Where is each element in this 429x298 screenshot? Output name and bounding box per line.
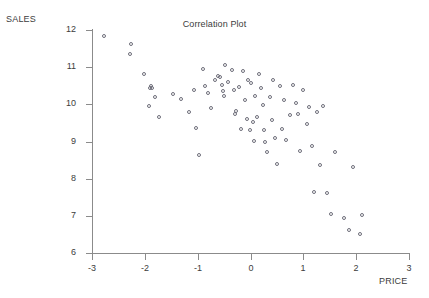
scatter-point xyxy=(213,78,217,82)
scatter-point xyxy=(171,92,175,96)
scatter-point xyxy=(153,95,157,99)
x-tick-label: 1 xyxy=(291,263,315,273)
y-tick-mark xyxy=(86,67,92,68)
scatter-point xyxy=(325,191,329,195)
scatter-point xyxy=(192,88,196,92)
scatter-point xyxy=(142,72,146,76)
scatter-point xyxy=(253,94,257,98)
scatter-point xyxy=(222,94,226,98)
scatter-point xyxy=(296,112,300,116)
scatter-point xyxy=(150,86,154,90)
x-tick-mark xyxy=(303,254,304,260)
scatter-point xyxy=(310,144,314,148)
y-tick-mark xyxy=(86,30,92,31)
scatter-point xyxy=(209,106,213,110)
x-tick-mark xyxy=(198,254,199,260)
scatter-point xyxy=(271,78,275,82)
scatter-point xyxy=(307,105,311,109)
scatter-point xyxy=(358,232,362,236)
scatter-point xyxy=(206,91,210,95)
y-tick-mark xyxy=(86,104,92,105)
y-tick-label: 10 xyxy=(52,98,76,108)
scatter-point xyxy=(223,63,227,67)
scatter-point xyxy=(288,113,292,117)
y-tick-label: 7 xyxy=(52,210,76,220)
y-tick-label: 8 xyxy=(52,173,76,183)
scatter-point xyxy=(147,104,151,108)
x-tick-mark xyxy=(251,254,252,260)
scatter-point xyxy=(243,98,247,102)
scatter-point xyxy=(220,83,224,87)
scatter-point xyxy=(179,97,183,101)
scatter-point xyxy=(241,69,245,73)
scatter-point xyxy=(257,72,261,76)
y-tick-label: 6 xyxy=(52,247,76,257)
scatter-point xyxy=(360,213,364,217)
scatter-point xyxy=(197,153,201,157)
x-tick-mark xyxy=(356,254,357,260)
scatter-point xyxy=(203,84,207,88)
scatter-point xyxy=(252,139,256,143)
scatter-point xyxy=(342,216,346,220)
scatter-point xyxy=(301,88,305,92)
scatter-point xyxy=(305,122,309,126)
scatter-point xyxy=(259,86,263,90)
scatter-point xyxy=(329,212,333,216)
scatter-point xyxy=(278,84,282,88)
y-tick-mark xyxy=(86,216,92,217)
scatter-point xyxy=(226,80,230,84)
x-tick-label: -1 xyxy=(186,263,210,273)
scatter-point xyxy=(221,89,225,93)
scatter-point xyxy=(273,136,277,140)
scatter-point xyxy=(347,228,351,232)
scatter-point xyxy=(251,120,255,124)
x-tick-label: -3 xyxy=(80,263,104,273)
scatter-point xyxy=(284,138,288,142)
x-tick-mark xyxy=(409,254,410,260)
scatter-point xyxy=(262,128,266,132)
scatter-point xyxy=(248,128,252,132)
scatter-point xyxy=(261,103,265,107)
scatter-point xyxy=(265,150,269,154)
x-tick-label: 0 xyxy=(239,263,263,273)
scatter-point xyxy=(239,127,243,131)
scatter-point xyxy=(201,67,205,71)
scatter-point xyxy=(245,117,249,121)
scatter-point xyxy=(282,98,286,102)
scatter-point xyxy=(294,101,298,105)
scatter-point xyxy=(194,126,198,130)
y-axis-label: SALES xyxy=(6,14,36,24)
scatter-point xyxy=(129,42,133,46)
scatter-point xyxy=(291,83,295,87)
scatter-point xyxy=(318,163,322,167)
scatter-point xyxy=(234,109,238,113)
scatter-point xyxy=(275,162,279,166)
scatter-point xyxy=(230,68,234,72)
y-tick-label: 12 xyxy=(52,24,76,34)
scatter-point xyxy=(268,95,272,99)
scatter-point xyxy=(280,127,284,131)
scatter-point xyxy=(102,34,106,38)
x-axis-label: PRICE xyxy=(379,276,408,286)
scatter-point xyxy=(321,104,325,108)
scatter-point xyxy=(128,52,132,56)
y-tick-mark xyxy=(86,179,92,180)
scatter-point xyxy=(187,110,191,114)
scatter-point xyxy=(298,149,302,153)
y-axis-line xyxy=(92,29,93,254)
scatter-point xyxy=(157,115,161,119)
scatter-point xyxy=(237,85,241,89)
scatter-point xyxy=(249,81,253,85)
y-tick-label: 9 xyxy=(52,136,76,146)
x-tick-label: -2 xyxy=(133,263,157,273)
scatter-point xyxy=(270,118,274,122)
scatter-point xyxy=(218,75,222,79)
correlation-scatter-plot: Correlation Plot SALES PRICE 6789101112 … xyxy=(0,0,429,298)
scatter-point xyxy=(333,150,337,154)
scatter-point xyxy=(263,140,267,144)
y-tick-label: 11 xyxy=(52,61,76,71)
scatter-point xyxy=(312,190,316,194)
scatter-point xyxy=(315,110,319,114)
y-tick-mark xyxy=(86,142,92,143)
scatter-point xyxy=(351,165,355,169)
